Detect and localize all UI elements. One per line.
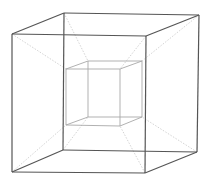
outer-cube-depth-edge — [146, 15, 199, 36]
outer-cube-back-edge — [63, 150, 197, 152]
connecting-edge — [142, 117, 197, 152]
outer-cube-depth-edge — [145, 152, 197, 173]
outer-cube-back-edge — [197, 15, 199, 152]
connecting-edge — [120, 126, 145, 173]
inner-cube-front-edge — [66, 125, 120, 126]
outer-cube-front-edge — [12, 34, 146, 36]
inner-cube-depth-edge — [120, 117, 142, 126]
connecting-edge — [12, 125, 66, 172]
inner-cube-depth-edge — [66, 61, 88, 69]
outer-cube-front-edge — [12, 172, 145, 173]
tesseract-diagram — [0, 0, 209, 181]
outer-cube-back-edge — [64, 13, 199, 15]
outer-cube-front-edge — [145, 36, 146, 173]
outer-cube-depth-edge — [12, 13, 64, 34]
connecting-edge — [64, 13, 88, 61]
connecting-edges — [12, 13, 199, 173]
inner-cube — [66, 61, 142, 126]
connecting-edge — [12, 34, 66, 69]
outer-cube-back-edge — [63, 13, 64, 150]
outer-cube-depth-edge — [12, 150, 63, 172]
outer-cube — [12, 13, 199, 173]
connecting-edge — [142, 15, 199, 61]
